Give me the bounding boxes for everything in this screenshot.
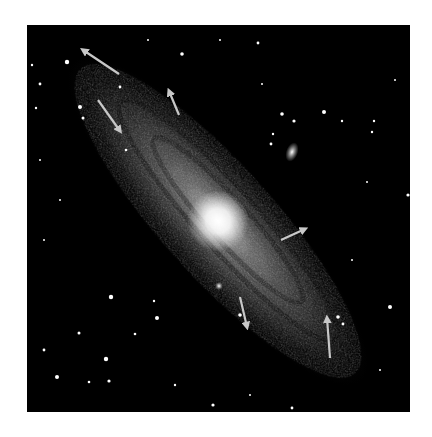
companion-galaxy-upper-right [283, 141, 301, 164]
star [65, 60, 69, 64]
star [109, 295, 113, 299]
star [104, 357, 108, 361]
star [78, 332, 81, 335]
galaxy-texture [39, 31, 397, 411]
star [82, 117, 85, 120]
star [406, 193, 409, 196]
star [351, 259, 353, 261]
star [291, 407, 294, 410]
star [261, 83, 263, 85]
star [257, 42, 260, 45]
galaxy-star-clouds [39, 31, 397, 411]
star [31, 64, 33, 66]
star [394, 79, 396, 81]
star [88, 381, 91, 384]
star [43, 349, 46, 352]
star [134, 333, 137, 336]
star [219, 39, 221, 41]
star [35, 107, 37, 109]
star [153, 300, 155, 302]
star [119, 86, 122, 89]
star [322, 110, 326, 114]
star [147, 39, 149, 41]
companion-galaxy-lower [215, 282, 223, 290]
galaxy-image [27, 25, 410, 412]
star [107, 379, 110, 382]
star [174, 384, 176, 386]
star [292, 119, 295, 122]
star [78, 105, 82, 109]
star [125, 149, 128, 152]
star [238, 313, 242, 317]
star [39, 159, 41, 161]
star [388, 305, 392, 309]
star [342, 323, 345, 326]
star [373, 120, 375, 122]
star [211, 403, 214, 406]
sky-canvas [27, 25, 410, 412]
star [366, 181, 368, 183]
star [280, 112, 284, 116]
star [59, 199, 61, 201]
star [155, 316, 159, 320]
star [341, 120, 343, 122]
star [180, 52, 184, 56]
star [39, 83, 42, 86]
star [270, 143, 273, 146]
star [371, 131, 373, 133]
star [43, 239, 45, 241]
star [379, 369, 381, 371]
star [336, 315, 340, 319]
star [55, 375, 59, 379]
star [249, 394, 251, 396]
star [272, 133, 274, 135]
